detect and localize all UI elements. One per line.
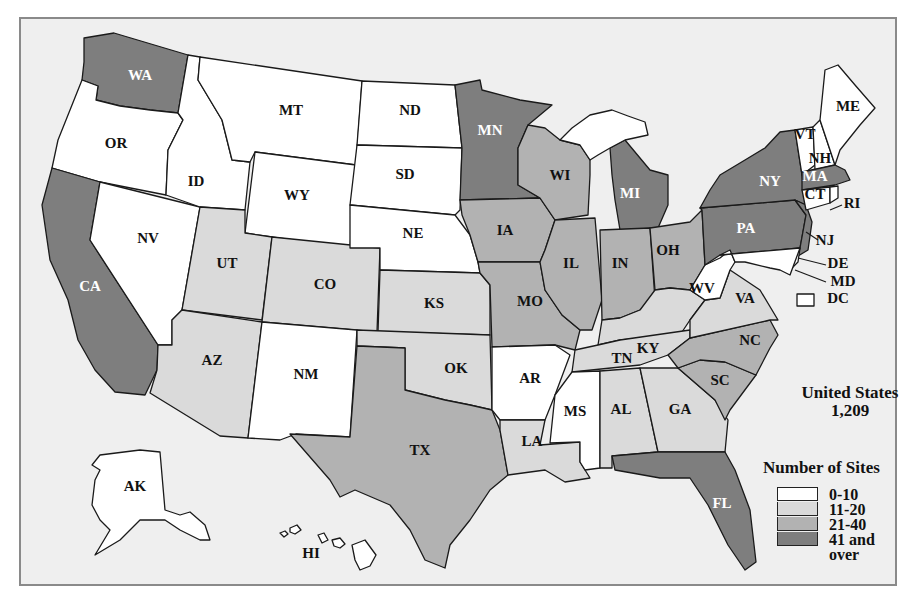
legend-swatch <box>777 487 818 501</box>
state-label-ne: NE <box>403 225 424 241</box>
legend-swatch <box>777 517 818 531</box>
leader-line-de <box>798 258 826 265</box>
state-label-co: CO <box>314 276 337 292</box>
state-label-wv: WV <box>689 280 715 296</box>
state-label-oh: OH <box>656 242 680 258</box>
state-label-ny: NY <box>759 173 781 189</box>
state-label-id: ID <box>188 173 205 189</box>
state-label-mn: MN <box>478 122 503 138</box>
state-ak <box>92 450 210 555</box>
leader-line-ri <box>830 205 842 210</box>
state-label-mt: MT <box>279 102 303 118</box>
legend: Number of Sites 0-10 11-20 21-40 41 and … <box>763 458 898 547</box>
state-label-ks: KS <box>424 295 444 311</box>
state-label-hi: HI <box>302 545 320 561</box>
state-label-ak: AK <box>124 478 147 494</box>
state-label-fl: FL <box>712 495 731 511</box>
state-label-wa: WA <box>128 67 152 83</box>
state-label-nj: NJ <box>816 232 835 248</box>
legend-swatch <box>777 502 818 516</box>
state-label-ia: IA <box>497 222 514 238</box>
state-label-il: IL <box>563 255 579 271</box>
state-label-ga: GA <box>669 401 692 417</box>
us-total-label: United States <box>795 384 905 402</box>
state-label-nd: ND <box>399 102 421 118</box>
state-ri <box>830 186 838 203</box>
state-label-ar: AR <box>519 370 541 386</box>
legend-item-11-20: 11-20 <box>763 502 898 517</box>
state-label-la: LA <box>522 433 543 449</box>
state-label-va: VA <box>735 290 755 306</box>
state-dc <box>797 294 814 306</box>
state-label-or: OR <box>105 135 128 151</box>
legend-label: 21-40 <box>829 517 891 532</box>
state-label-ct: CT <box>805 186 826 202</box>
state-label-ky: KY <box>637 340 660 356</box>
legend-swatch <box>777 532 818 546</box>
state-label-nm: NM <box>294 366 319 382</box>
state-label-ri: RI <box>844 195 861 211</box>
legend-label: 41 and over <box>829 532 891 562</box>
state-label-tn: TN <box>612 350 633 366</box>
state-label-nv: NV <box>137 230 159 246</box>
state-label-me: ME <box>836 98 860 114</box>
hawaii-island <box>318 533 328 543</box>
state-label-vt: VT <box>795 126 816 142</box>
state-label-nh: NH <box>809 150 832 166</box>
state-label-ut: UT <box>217 255 238 271</box>
state-label-nc: NC <box>739 332 761 348</box>
us-total-value: 1,209 <box>795 402 905 420</box>
state-label-md: MD <box>831 273 856 289</box>
state-label-ok: OK <box>444 360 468 376</box>
state-label-wi: WI <box>550 167 571 183</box>
state-hi <box>352 540 376 570</box>
legend-title: Number of Sites <box>763 458 898 478</box>
state-label-sd: SD <box>395 166 414 182</box>
legend-label: 0-10 <box>829 487 891 502</box>
state-label-ca: CA <box>79 278 101 294</box>
state-label-al: AL <box>611 401 632 417</box>
hawaii-island <box>280 531 288 537</box>
legend-item-0-10: 0-10 <box>763 487 898 502</box>
state-label-pa: PA <box>737 220 756 236</box>
us-total: United States 1,209 <box>795 384 905 420</box>
state-label-az: AZ <box>202 352 223 368</box>
state-label-in: IN <box>612 255 629 271</box>
legend-item-21-40: 21-40 <box>763 517 898 532</box>
state-label-ma: MA <box>803 168 828 184</box>
state-label-ms: MS <box>564 403 587 419</box>
state-fl <box>612 452 756 570</box>
state-label-sc: SC <box>710 372 729 388</box>
legend-label: 11-20 <box>829 502 891 517</box>
hawaii-island <box>332 538 345 548</box>
leader-line-md <box>795 270 826 282</box>
state-ny <box>700 130 806 208</box>
state-label-de: DE <box>828 255 849 271</box>
state-label-mo: MO <box>517 293 543 309</box>
state-label-tx: TX <box>410 442 431 458</box>
hawaii-island <box>290 525 301 534</box>
state-label-mi: MI <box>620 185 640 201</box>
state-label-wy: WY <box>284 187 310 203</box>
legend-item-41-and-over: 41 and over <box>763 532 898 547</box>
state-label-dc: DC <box>827 290 849 306</box>
